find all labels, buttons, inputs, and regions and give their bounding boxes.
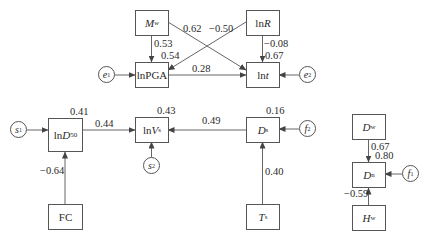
node-ds: Ds: [246, 117, 280, 143]
node-dw: Dw: [352, 114, 386, 140]
r2-lnt: 0.67: [265, 51, 283, 62]
coef-lnd50-lnvs: 0.44: [95, 119, 113, 130]
node-hw: Hw: [352, 205, 386, 231]
coef-ds-lnvs: 0.49: [202, 116, 220, 127]
node-lnt: lnt: [246, 62, 280, 88]
node-lnpga: lnPGA: [135, 62, 169, 88]
error-s2: s2: [143, 157, 160, 174]
coef-mw-lnpga: 0.53: [154, 39, 172, 50]
node-fc: FC: [48, 204, 83, 230]
error-s1: s1: [10, 121, 27, 138]
coef-lnr-lnpga: −0.50: [209, 24, 233, 35]
node-lnvs: lnVs: [135, 117, 169, 143]
coef-fc-lnd50: −0.64: [40, 166, 64, 177]
coef-ts-ds: 0.40: [265, 167, 283, 178]
r2-lnvs: 0.43: [157, 106, 175, 117]
node-lnd50: lnD50: [48, 118, 83, 152]
error-f1: f1: [402, 165, 419, 182]
r2-ds: 0.16: [266, 106, 284, 117]
coef-mw-lnt: 0.62: [183, 24, 201, 35]
node-mw: Mw: [135, 10, 169, 36]
r2-lnpga: 0.54: [161, 51, 179, 62]
node-ts: Ts: [246, 204, 280, 230]
error-f2: f2: [299, 120, 316, 137]
coef-hw-dn: −0.59: [344, 189, 368, 200]
r2-dn: 0.80: [375, 151, 393, 162]
error-e1: e1: [98, 66, 115, 83]
node-dn: Dn: [352, 162, 386, 188]
coef-lnpga-lnt: 0.28: [192, 64, 210, 75]
node-lnr: lnR: [246, 10, 280, 36]
coef-lnr-lnt: −0.08: [264, 39, 288, 50]
error-e2: e2: [299, 66, 316, 83]
r2-lnd50: 0.41: [70, 107, 88, 118]
